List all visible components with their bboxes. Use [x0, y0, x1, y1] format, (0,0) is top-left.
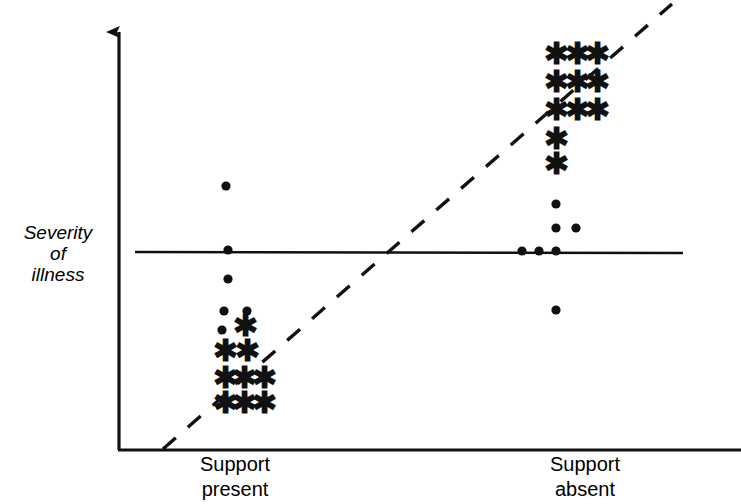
- mean-reference-line: [135, 252, 683, 253]
- x-tick-label-left-line-1: Support: [150, 452, 320, 477]
- data-markers-group: ✱✱✱✱✱✱✱✱✱✱✱✱✱✱✱✱✱✱✱✱: [213, 37, 610, 419]
- plot-canvas: ✱✱✱✱✱✱✱✱✱✱✱✱✱✱✱✱✱✱✱✱: [0, 0, 741, 504]
- x-tick-label-left-line-2: present: [150, 477, 320, 502]
- data-point-dot: [219, 306, 228, 315]
- x-tick-label-right-line-1: Support: [500, 452, 670, 477]
- x-tick-label-support-absent: Support absent: [500, 452, 670, 502]
- series-group-left: ✱✱✱✱✱✱✱✱✱: [213, 181, 277, 418]
- x-tick-label-right-line-2: absent: [500, 477, 670, 502]
- data-point-dot: [223, 245, 232, 254]
- data-point-dot: [551, 305, 560, 314]
- x-tick-label-support-present: Support present: [150, 452, 320, 502]
- data-point-asterisk: ✱: [544, 147, 569, 180]
- data-point-dot: [551, 223, 560, 232]
- scatter-plot-figure: ✱✱✱✱✱✱✱✱✱✱✱✱✱✱✱✱✱✱✱✱ Severity of illness…: [0, 0, 741, 504]
- y-axis-label-line-1: Severity: [6, 222, 110, 243]
- y-axis-label-line-3: illness: [6, 264, 110, 285]
- data-point-dot: [534, 246, 543, 255]
- series-group-right: ✱✱✱✱✱✱✱✱✱✱✱: [517, 37, 609, 315]
- data-point-dot: [517, 246, 526, 255]
- data-point-asterisk: ✱: [585, 93, 610, 126]
- data-point-dot: [571, 223, 580, 232]
- y-axis-label-line-2: of: [6, 243, 110, 264]
- data-point-dot: [221, 181, 230, 190]
- data-point-dot: [551, 246, 560, 255]
- y-axis-label: Severity of illness: [6, 222, 110, 285]
- data-point-asterisk: ✱: [252, 386, 277, 419]
- data-point-dot: [223, 274, 232, 283]
- data-point-dot: [551, 199, 560, 208]
- axes-group: [118, 32, 741, 450]
